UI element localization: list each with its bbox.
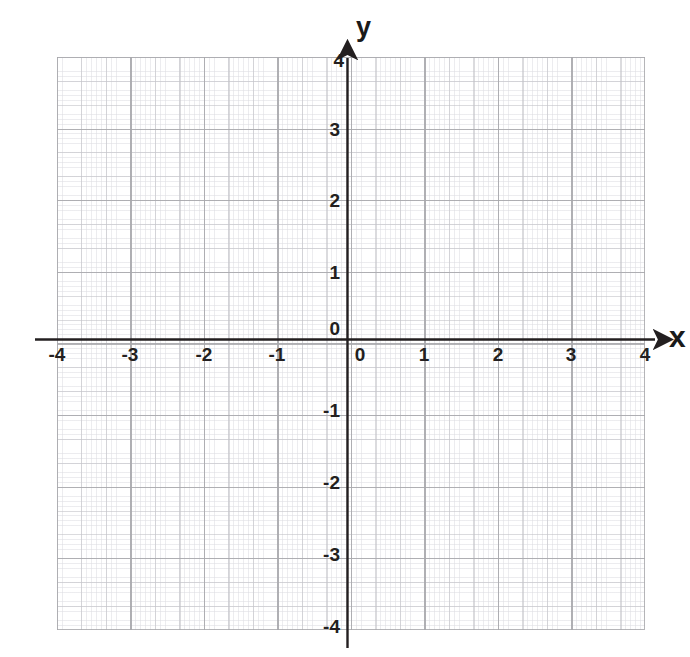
y-tick-label--1: -1 xyxy=(323,401,340,420)
x-tick-label--2: -2 xyxy=(196,345,213,364)
x-tick-label--3: -3 xyxy=(122,345,139,364)
y-tick-label-0: 0 xyxy=(329,319,340,338)
y-tick-label--4: -4 xyxy=(323,617,340,636)
x-tick-label-3: 3 xyxy=(566,345,577,364)
y-axis-name-label: y xyxy=(356,14,371,41)
y-tick-label-4: 4 xyxy=(333,51,344,70)
x-tick-label-0: 0 xyxy=(355,345,366,364)
y-tick-label-1: 1 xyxy=(329,263,340,282)
graph-paper-grid xyxy=(57,57,645,630)
x-axis-name-label: x xyxy=(669,322,686,352)
coordinate-plane: -4 -3 -2 -1 0 1 2 3 4 4 3 2 1 0 -1 -2 -3… xyxy=(0,0,690,657)
y-tick-label-2: 2 xyxy=(329,191,340,210)
x-tick-label-1: 1 xyxy=(419,345,430,364)
x-tick-label-4: 4 xyxy=(640,345,651,364)
x-tick-label--1: -1 xyxy=(269,345,286,364)
y-tick-label--2: -2 xyxy=(323,473,340,492)
x-tick-label--4: -4 xyxy=(49,345,66,364)
y-tick-label--3: -3 xyxy=(323,545,340,564)
y-tick-label-3: 3 xyxy=(329,120,340,139)
x-tick-label-2: 2 xyxy=(493,345,504,364)
